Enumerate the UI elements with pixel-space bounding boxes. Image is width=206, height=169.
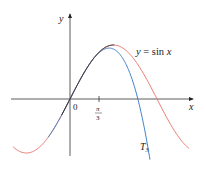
sin-curve-label: y = sin x [135, 46, 172, 57]
tick-label-denominator: 3 [96, 114, 100, 122]
x-axis-label: x [188, 101, 194, 112]
origin-label: 0 [73, 102, 78, 112]
overlap-curve [62, 45, 115, 115]
y-axis-label: y [58, 13, 64, 24]
t3-curve [48, 48, 150, 160]
taylor-polynomial-plot: y x 0 π 3 y = sin x T3 [0, 0, 206, 169]
tick-label-numerator: π [96, 105, 100, 113]
